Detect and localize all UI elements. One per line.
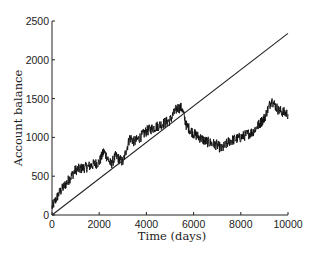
x-tick-label: 0 — [49, 218, 55, 230]
balance-random-walk-line — [52, 98, 288, 208]
linear-trend-line — [52, 33, 288, 215]
y-tick-label: 500 — [31, 170, 49, 182]
y-tick-label: 2000 — [26, 54, 50, 66]
y-tick-label: 1500 — [26, 93, 50, 105]
y-tick-label: 1000 — [26, 131, 50, 143]
x-tick-label: 2000 — [88, 218, 112, 230]
y-tick-label: 2500 — [26, 15, 50, 27]
data-series — [52, 33, 288, 215]
y-axis-ticks: 05001000150020002500 — [26, 15, 55, 221]
y-axis-label: Account balance — [11, 70, 25, 168]
x-tick-label: 10000 — [273, 218, 302, 230]
x-tick-label: 8000 — [229, 218, 253, 230]
account-balance-chart: 05001000150020002500 0200040006000800010… — [0, 0, 316, 261]
x-axis-label: Time (days) — [138, 229, 206, 243]
